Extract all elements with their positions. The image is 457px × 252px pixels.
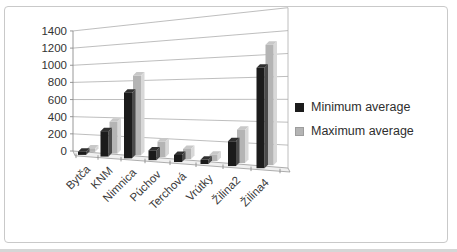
chart-legend[interactable]: Minimum average Maximum average: [295, 100, 414, 138]
x-axis-label-Žilina2[interactable]: Žilina2: [210, 174, 242, 206]
y-axis-tick-label: 1400: [41, 25, 67, 37]
legend-swatch-maximum-icon: [295, 127, 304, 136]
y-axis-tick-label: 400: [48, 111, 67, 123]
y-axis-tick-label: 600: [48, 94, 67, 106]
legend-item-maximum-average[interactable]: Maximum average: [295, 124, 414, 138]
legend-label-maximum: Maximum average: [311, 124, 414, 138]
chart-screenshot: 0200400600800100012001400BytčaKNMNimnica…: [0, 0, 457, 252]
bar-group-KNM[interactable]: [101, 118, 122, 156]
y-axis-tick-label: 1200: [41, 42, 67, 54]
y-axis-tick-label: 800: [48, 76, 67, 88]
y-axis[interactable]: 0200400600800100012001400: [41, 25, 73, 157]
y-axis-tick-label: 200: [48, 128, 67, 140]
legend-item-minimum-average[interactable]: Minimum average: [295, 100, 414, 114]
y-axis-tick-label: 0: [61, 145, 67, 157]
bar-group-Nimnica[interactable]: [124, 72, 145, 158]
y-axis-tick-label: 1000: [41, 59, 67, 71]
bar-group-Terchová[interactable]: [174, 145, 195, 162]
bar-group-Púchov[interactable]: [149, 138, 170, 160]
bar-group-Žilina4[interactable]: [257, 41, 278, 168]
legend-label-minimum: Minimum average: [311, 100, 410, 114]
x-axis-label-Bytča[interactable]: Bytča: [64, 162, 93, 191]
x-axis-labels: BytčaKNMNimnicaPúchovTerchováVrútkyŽilin…: [64, 162, 272, 211]
x-axis-label-Žilina4[interactable]: Žilina4: [238, 176, 271, 209]
legend-swatch-minimum-icon: [295, 103, 304, 112]
bar-group-Žilina2[interactable]: [228, 126, 249, 166]
